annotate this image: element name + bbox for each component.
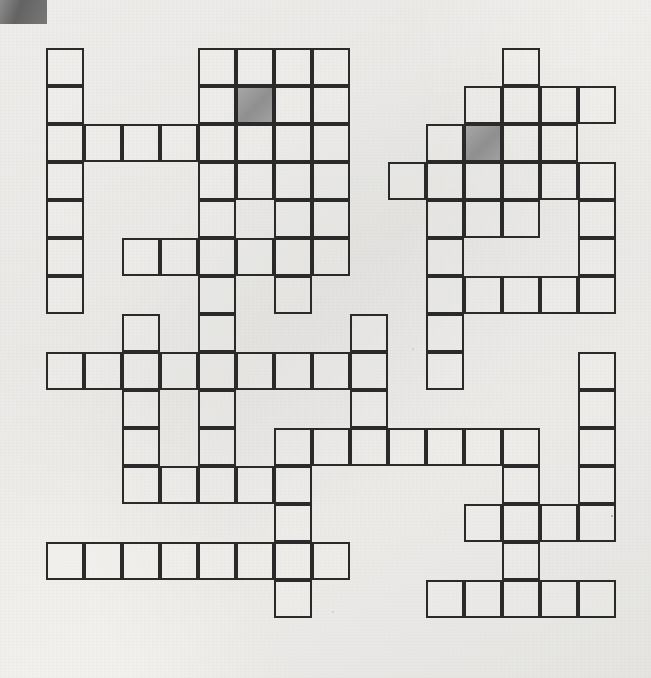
crossword-cell[interactable] xyxy=(464,200,502,238)
crossword-cell[interactable] xyxy=(540,124,578,162)
crossword-cell[interactable] xyxy=(274,162,312,200)
crossword-cell[interactable] xyxy=(236,466,274,504)
crossword-cell[interactable] xyxy=(426,200,464,238)
crossword-cell[interactable] xyxy=(578,504,616,542)
crossword-cell[interactable] xyxy=(426,352,464,390)
crossword-cell[interactable] xyxy=(122,314,160,352)
crossword-cell[interactable] xyxy=(464,162,502,200)
crossword-cell[interactable] xyxy=(350,314,388,352)
crossword-cell[interactable] xyxy=(464,504,502,542)
crossword-cell[interactable] xyxy=(46,238,84,276)
crossword-cell[interactable] xyxy=(160,466,198,504)
crossword-cell[interactable] xyxy=(198,276,236,314)
crossword-cell[interactable] xyxy=(274,542,312,580)
crossword-cell[interactable] xyxy=(426,428,464,466)
crossword-cell[interactable] xyxy=(46,352,84,390)
crossword-cell[interactable] xyxy=(502,580,540,618)
crossword-cell-shaded[interactable] xyxy=(236,86,274,124)
crossword-cell[interactable] xyxy=(502,200,540,238)
crossword-cell[interactable] xyxy=(274,86,312,124)
crossword-cell[interactable] xyxy=(578,86,616,124)
crossword-cell[interactable] xyxy=(274,466,312,504)
crossword-cell[interactable] xyxy=(540,504,578,542)
crossword-cell[interactable] xyxy=(502,48,540,86)
crossword-cell[interactable] xyxy=(578,352,616,390)
crossword-cell[interactable] xyxy=(350,428,388,466)
crossword-cell[interactable] xyxy=(236,352,274,390)
crossword-cell[interactable] xyxy=(198,542,236,580)
crossword-cell[interactable] xyxy=(426,580,464,618)
crossword-cell[interactable] xyxy=(46,200,84,238)
crossword-cell[interactable] xyxy=(122,352,160,390)
crossword-cell[interactable] xyxy=(122,542,160,580)
crossword-cell[interactable] xyxy=(350,352,388,390)
crossword-cell[interactable] xyxy=(540,162,578,200)
crossword-cell[interactable] xyxy=(198,428,236,466)
crossword-cell[interactable] xyxy=(312,352,350,390)
crossword-cell[interactable] xyxy=(578,580,616,618)
crossword-cell[interactable] xyxy=(122,390,160,428)
crossword-cell[interactable] xyxy=(502,276,540,314)
crossword-cell[interactable] xyxy=(502,466,540,504)
crossword-cell[interactable] xyxy=(350,390,388,428)
crossword-cell[interactable] xyxy=(312,48,350,86)
crossword-cell[interactable] xyxy=(502,162,540,200)
crossword-cell[interactable] xyxy=(160,238,198,276)
crossword-cell[interactable] xyxy=(274,352,312,390)
crossword-cell[interactable] xyxy=(274,504,312,542)
crossword-cell[interactable] xyxy=(502,124,540,162)
crossword-cell[interactable] xyxy=(388,162,426,200)
crossword-cell[interactable] xyxy=(198,162,236,200)
crossword-cell[interactable] xyxy=(122,466,160,504)
crossword-cell[interactable] xyxy=(198,466,236,504)
crossword-cell[interactable] xyxy=(464,428,502,466)
crossword-cell[interactable] xyxy=(426,314,464,352)
crossword-cell[interactable] xyxy=(236,162,274,200)
crossword-cell[interactable] xyxy=(502,542,540,580)
crossword-cell[interactable] xyxy=(578,238,616,276)
crossword-cell[interactable] xyxy=(312,542,350,580)
crossword-cell[interactable] xyxy=(236,124,274,162)
crossword-cell[interactable] xyxy=(502,504,540,542)
crossword-cell[interactable] xyxy=(540,276,578,314)
crossword-cell[interactable] xyxy=(578,390,616,428)
crossword-cell[interactable] xyxy=(502,428,540,466)
crossword-cell[interactable] xyxy=(84,352,122,390)
crossword-cell[interactable] xyxy=(160,542,198,580)
crossword-cell[interactable] xyxy=(46,86,84,124)
crossword-cell[interactable] xyxy=(198,238,236,276)
crossword-cell[interactable] xyxy=(122,428,160,466)
crossword-cell[interactable] xyxy=(464,276,502,314)
crossword-cell[interactable] xyxy=(274,124,312,162)
crossword-cell[interactable] xyxy=(312,428,350,466)
crossword-cell[interactable] xyxy=(426,276,464,314)
crossword-cell[interactable] xyxy=(312,200,350,238)
crossword-cell[interactable] xyxy=(312,86,350,124)
crossword-cell[interactable] xyxy=(388,428,426,466)
crossword-cell[interactable] xyxy=(84,542,122,580)
crossword-cell[interactable] xyxy=(198,48,236,86)
crossword-cell[interactable] xyxy=(198,124,236,162)
crossword-cell[interactable] xyxy=(426,124,464,162)
crossword-cell[interactable] xyxy=(274,580,312,618)
crossword-cell[interactable] xyxy=(46,124,84,162)
crossword-cell[interactable] xyxy=(198,352,236,390)
crossword-cell[interactable] xyxy=(46,162,84,200)
crossword-cell[interactable] xyxy=(274,276,312,314)
crossword-cell[interactable] xyxy=(540,580,578,618)
crossword-cell[interactable] xyxy=(236,48,274,86)
crossword-cell[interactable] xyxy=(160,352,198,390)
crossword-cell[interactable] xyxy=(236,542,274,580)
crossword-cell[interactable] xyxy=(578,200,616,238)
crossword-cell[interactable] xyxy=(46,542,84,580)
crossword-cell[interactable] xyxy=(274,200,312,238)
crossword-cell[interactable] xyxy=(274,238,312,276)
crossword-cell[interactable] xyxy=(236,238,274,276)
crossword-cell[interactable] xyxy=(46,276,84,314)
crossword-cell[interactable] xyxy=(274,48,312,86)
crossword-cell[interactable] xyxy=(540,86,578,124)
crossword-cell[interactable] xyxy=(426,238,464,276)
crossword-cell[interactable] xyxy=(160,124,198,162)
crossword-cell[interactable] xyxy=(198,86,236,124)
crossword-cell[interactable] xyxy=(312,162,350,200)
